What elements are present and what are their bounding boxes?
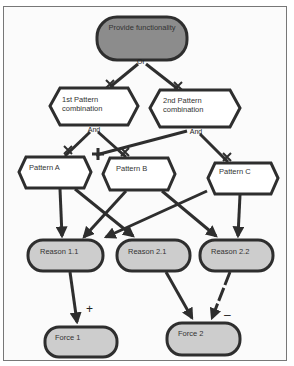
pattern-a-label: Pattern A: [29, 163, 60, 172]
positive-contribution-label: +: [86, 302, 93, 316]
edge-pattern-c-to-reason-2-2: [238, 195, 240, 236]
edge-reason-1-1-to-force-1: [70, 272, 77, 322]
force-node-2[interactable]: Force 2: [167, 323, 240, 355]
combination-node-1st[interactable]: 1st Pattern combination: [50, 88, 138, 125]
force-node-1[interactable]: Force 1: [45, 327, 117, 357]
combination-1-line1: 1st Pattern: [62, 95, 98, 104]
reason-node-2-2[interactable]: Reason 2.2: [200, 240, 273, 271]
pattern-b-label: Pattern B: [116, 164, 147, 173]
reason-1-1-label: Reason 1.1: [40, 247, 78, 256]
pattern-c-label: Pattern C: [219, 167, 251, 176]
reason-2-2-label: Reason 2.2: [211, 247, 249, 256]
combination-2-line1: 2nd Pattern: [163, 96, 202, 105]
reason-node-1-1[interactable]: Reason 1.1: [28, 240, 103, 271]
edge-1st-combination-to-pattern-a: [64, 132, 90, 156]
pattern-node-a[interactable]: Pattern A: [19, 157, 91, 188]
edge-2nd-combination-to-pattern-c: [200, 134, 231, 162]
or-decomposition-label: Or: [137, 58, 145, 65]
pattern-node-b[interactable]: Pattern B: [103, 158, 175, 190]
edge-reason-2-1-to-force-2: [166, 272, 192, 318]
force-2-label: Force 2: [178, 329, 203, 338]
combination-2-line2: combination: [163, 105, 203, 114]
and-decomposition-label-2: And: [190, 128, 203, 135]
negative-contribution-label: –: [224, 308, 231, 322]
goal-model-diagram: Provide functionality Or 1st Pattern com…: [0, 0, 294, 366]
edge-goal-to-1st-combination: [106, 64, 138, 88]
edge-goal-to-2nd-combination: [146, 64, 182, 90]
reason-2-1-label: Reason 2.1: [128, 247, 166, 256]
edge-2nd-combination-to-pattern-a: [92, 131, 187, 160]
edge-pattern-a-to-reason-1-1: [60, 189, 62, 236]
reason-node-2-1[interactable]: Reason 2.1: [117, 240, 190, 271]
pattern-node-c[interactable]: Pattern C: [208, 163, 278, 194]
combination-node-2nd[interactable]: 2nd Pattern combination: [150, 90, 240, 127]
goal-label: Provide functionality: [108, 23, 175, 32]
goal-node-provide-functionality[interactable]: Provide functionality: [97, 17, 187, 60]
and-decomposition-label-1: And: [88, 126, 101, 133]
combination-1-line2: combination: [62, 104, 102, 113]
force-1-label: Force 1: [55, 333, 80, 342]
